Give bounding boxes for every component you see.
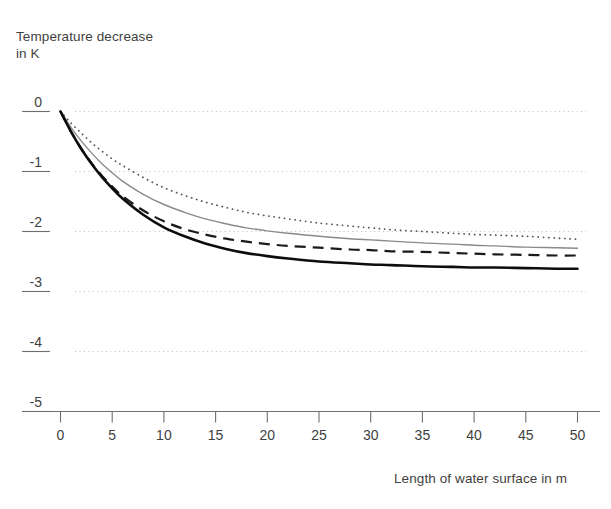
y-axis-title-line-1: Temperature decrease xyxy=(16,29,153,44)
x-tick-label-15: 15 xyxy=(199,427,233,443)
x-tick-label-45: 45 xyxy=(509,427,543,443)
chart-figure: Temperature decreasein K Length of water… xyxy=(0,0,611,509)
y-axis-title: Temperature decreasein K xyxy=(16,28,153,62)
x-tick-label-10: 10 xyxy=(147,427,181,443)
y-tick-label-0: 0 xyxy=(8,94,42,110)
y-tick-label--5: -5 xyxy=(8,394,42,410)
x-tick-label-0: 0 xyxy=(44,427,78,443)
x-axis-group xyxy=(22,412,600,423)
x-tick-label-40: 40 xyxy=(457,427,491,443)
curve-gray-solid xyxy=(61,112,578,249)
x-tick-label-30: 30 xyxy=(354,427,388,443)
x-tick-label-35: 35 xyxy=(405,427,439,443)
data-curves-group xyxy=(61,112,578,269)
y-tick-label--2: -2 xyxy=(8,214,42,230)
x-tick-label-5: 5 xyxy=(95,427,129,443)
x-tick-label-50: 50 xyxy=(561,427,595,443)
y-axis-title-line-2: in K xyxy=(16,46,40,61)
y-tick-label--4: -4 xyxy=(8,334,42,350)
curve-dotted xyxy=(61,112,578,240)
x-tick-label-20: 20 xyxy=(250,427,284,443)
y-tick-label--1: -1 xyxy=(8,154,42,170)
x-tick-label-25: 25 xyxy=(302,427,336,443)
gridlines-group xyxy=(75,112,586,352)
curve-black-solid xyxy=(61,112,578,269)
curve-black-dashed xyxy=(61,112,578,256)
y-tick-label--3: -3 xyxy=(8,274,42,290)
x-axis-title: Length of water surface in m xyxy=(394,470,567,487)
